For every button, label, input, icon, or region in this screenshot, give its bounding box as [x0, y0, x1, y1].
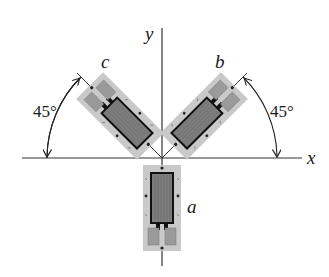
rosette-diagram: y x a b c 45° 45° [0, 0, 329, 277]
x-axis-label: x [306, 147, 316, 168]
angle-label-left: 45° [33, 102, 57, 121]
gauge-a [143, 165, 181, 251]
gauge-c-label: c [101, 51, 110, 72]
y-axis-label: y [143, 23, 154, 44]
gauge-b-label: b [215, 51, 225, 72]
gauge-a-label: a [187, 196, 197, 217]
angle-label-right: 45° [270, 102, 294, 121]
